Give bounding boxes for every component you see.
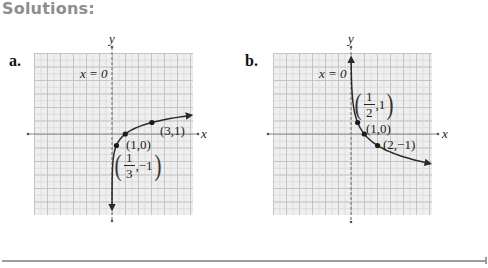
graph-b-y-axis-end-dot xyxy=(350,46,353,49)
bottom-divider xyxy=(2,260,486,262)
plotted-point xyxy=(149,120,154,125)
fraction-denominator: 2 xyxy=(366,105,373,119)
graph-a-y-axis-end-dot xyxy=(111,220,114,223)
graph-a-point-label-fraction: ( 1 3 ,−1 ) xyxy=(113,150,163,180)
fraction-rest: ,−1 xyxy=(136,159,153,172)
graph-b-axes xyxy=(267,46,440,224)
bottom-divider-end-tick xyxy=(485,257,487,264)
right-paren: ) xyxy=(387,89,394,119)
fraction-numerator: 1 xyxy=(364,90,375,105)
right-paren: ) xyxy=(154,150,161,180)
fraction-rest: ,1 xyxy=(376,98,386,111)
plotted-point xyxy=(123,131,128,136)
left-paren: ( xyxy=(115,150,122,180)
graph-a-point-label: (3,1) xyxy=(160,124,185,137)
graph-a-y-axis-label: y xyxy=(109,32,115,45)
graph-b-point-label: (1,0) xyxy=(366,122,391,135)
graph-b-point-label-fraction: ( 1 2 ,1 ) xyxy=(353,89,395,119)
plotted-point xyxy=(375,143,380,148)
graphs-overlay xyxy=(0,0,488,268)
graph-a-x-axis-end-dot xyxy=(27,133,30,136)
graph-a-asymptote-label: x = 0 xyxy=(80,67,108,80)
left-paren: ( xyxy=(355,89,362,119)
plotted-point xyxy=(355,120,360,125)
graph-b-asymptote-label: x = 0 xyxy=(319,67,347,80)
fraction-denominator: 3 xyxy=(126,166,133,180)
graph-b-point-label: (2,−1) xyxy=(383,138,415,151)
fraction-numerator: 1 xyxy=(124,151,135,166)
graph-b-x-axis-end-dot xyxy=(267,133,270,136)
graph-b-x-axis-end-dot xyxy=(437,133,440,136)
graph-b-x-axis-label: x xyxy=(442,127,448,140)
graph-a-x-axis-end-dot xyxy=(197,133,200,136)
graph-b-y-axis-label: y xyxy=(348,32,354,45)
graph-a-x-axis-label: x xyxy=(201,127,207,140)
graph-b-y-axis-end-dot xyxy=(350,221,353,224)
graph-a-y-axis-end-dot xyxy=(111,46,114,49)
fraction: 1 2 xyxy=(364,90,375,119)
fraction: 1 3 xyxy=(124,151,135,180)
